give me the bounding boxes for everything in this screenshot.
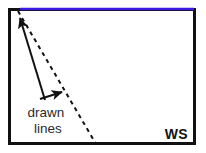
caption-line-1: drawn (28, 105, 65, 120)
caption-line-2: lines (34, 121, 62, 136)
figure-root: drawn lines WS (0, 0, 206, 153)
ws-watermark: WS (165, 126, 188, 142)
diagram-canvas: drawn lines WS (0, 0, 206, 153)
